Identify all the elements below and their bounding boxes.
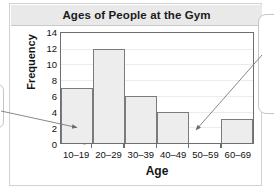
bar-slot bbox=[93, 33, 125, 143]
x-axis-tick-marks bbox=[60, 144, 254, 148]
y-tick-label: 4 bbox=[52, 106, 57, 117]
x-tick-label: 40–49 bbox=[157, 149, 189, 160]
x-tick-mark bbox=[222, 144, 254, 148]
bar-20-29 bbox=[93, 49, 125, 143]
bar-40-49 bbox=[157, 112, 189, 143]
bar-slot bbox=[189, 33, 221, 143]
x-tick-mark bbox=[157, 144, 189, 148]
x-tick-label: 30–39 bbox=[125, 149, 157, 160]
bar-slot bbox=[157, 33, 189, 143]
plot-area bbox=[60, 32, 254, 144]
x-tick-mark bbox=[60, 144, 92, 148]
chart-figure: Ages of People at the Gym Frequency 0 2 … bbox=[9, 3, 262, 186]
y-tick-label: 10 bbox=[46, 58, 57, 69]
bar-10-19 bbox=[61, 88, 93, 143]
y-tick-label: 12 bbox=[46, 42, 57, 53]
x-tick-mark bbox=[92, 144, 124, 148]
bar-slot bbox=[61, 33, 93, 143]
x-tick-label: 60–69 bbox=[222, 149, 254, 160]
y-tick-label: 2 bbox=[52, 122, 57, 133]
callout-box-left bbox=[0, 84, 4, 128]
bar-slot bbox=[221, 33, 253, 143]
x-tick-mark bbox=[189, 144, 221, 148]
x-tick-mark bbox=[125, 144, 157, 148]
y-tick-label: 0 bbox=[52, 139, 57, 150]
y-axis-tick-labels: 0 2 4 6 8 10 12 14 bbox=[36, 32, 57, 144]
bar-slot bbox=[125, 33, 157, 143]
x-axis-tick-labels: 10–19 20–29 30–39 40–49 50–59 60–69 bbox=[60, 149, 254, 160]
x-tick-label: 20–29 bbox=[92, 149, 124, 160]
x-tick-label: 10–19 bbox=[60, 149, 92, 160]
bar-30-39 bbox=[125, 96, 157, 143]
callout-box-right bbox=[258, 14, 274, 114]
chart-title: Ages of People at the Gym bbox=[62, 9, 210, 21]
x-tick-label: 50–59 bbox=[189, 149, 221, 160]
bar-series bbox=[61, 33, 253, 143]
bar-60-69 bbox=[221, 119, 253, 143]
x-axis-title: Age bbox=[60, 164, 254, 178]
y-tick-label: 8 bbox=[52, 74, 57, 85]
y-tick-label: 6 bbox=[52, 90, 57, 101]
chart-title-band: Ages of People at the Gym bbox=[11, 5, 262, 26]
y-tick-label: 14 bbox=[46, 27, 57, 38]
